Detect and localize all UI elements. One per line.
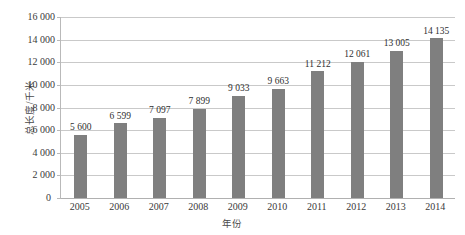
bar-value-label: 13 005 <box>384 39 410 49</box>
bar: 9 033 <box>232 96 245 198</box>
bar: 14 135 <box>430 38 443 198</box>
x-tick-label: 2011 <box>307 202 327 212</box>
y-tick-label: 12 000 <box>28 57 56 67</box>
x-tick-label: 2007 <box>149 202 169 212</box>
axis-baseline <box>61 198 455 199</box>
y-tick-mark <box>57 108 61 109</box>
x-axis-title: 年份 <box>0 216 465 230</box>
y-tick-mark <box>57 175 61 176</box>
bar-value-label: 11 212 <box>305 60 331 70</box>
x-tick-label: 2014 <box>425 202 445 212</box>
bar: 7 097 <box>153 118 166 198</box>
x-tick-label: 2009 <box>228 202 248 212</box>
y-tick-label: 8 000 <box>33 103 56 113</box>
y-tick-mark <box>57 17 61 18</box>
y-tick-label: 6 000 <box>33 125 56 135</box>
bar-chart: 总长度/千米 0 2 0004 0006 0008 00010 00012 00… <box>0 0 465 235</box>
bar-value-label: 7 899 <box>189 97 210 107</box>
y-tick-mark <box>57 40 61 41</box>
x-tick-label: 2008 <box>188 202 208 212</box>
bar: 7 899 <box>193 109 206 198</box>
x-tick-label: 2013 <box>386 202 406 212</box>
y-tick-label: 2 000 <box>33 170 56 180</box>
y-tick-label: 16 000 <box>28 12 56 22</box>
bar-value-label: 7 097 <box>149 106 170 116</box>
bar-value-label: 14 135 <box>423 27 449 37</box>
y-tick-mark <box>57 130 61 131</box>
bar-value-label: 5 600 <box>70 123 91 133</box>
x-tick-label: 2005 <box>70 202 90 212</box>
bar: 9 663 <box>272 89 285 198</box>
y-tick-mark <box>57 85 61 86</box>
bar-value-label: 9 033 <box>228 84 249 94</box>
y-tick-label: 14 000 <box>28 35 56 45</box>
x-tick-label: 2012 <box>346 202 366 212</box>
plot-area: 2 0004 0006 0008 00010 00012 00014 00016… <box>60 17 455 198</box>
bar: 11 212 <box>311 71 324 198</box>
y-tick-label: 4 000 <box>33 148 56 158</box>
y-tick-label-zero: 0 <box>46 193 51 203</box>
bar-value-label: 9 663 <box>268 77 289 87</box>
y-tick-mark <box>57 153 61 154</box>
y-tick-label: 10 000 <box>28 80 56 90</box>
y-tick-mark <box>57 198 61 199</box>
bar: 5 600 <box>74 135 87 198</box>
x-tick-label: 2006 <box>109 202 129 212</box>
bar: 13 005 <box>390 51 403 198</box>
bar: 6 599 <box>114 123 127 198</box>
y-tick-mark <box>57 62 61 63</box>
x-tick-label: 2010 <box>267 202 287 212</box>
gridline <box>61 17 455 18</box>
bar: 12 061 <box>351 62 364 198</box>
bar-value-label: 12 061 <box>344 50 370 60</box>
bar-value-label: 6 599 <box>110 112 131 122</box>
